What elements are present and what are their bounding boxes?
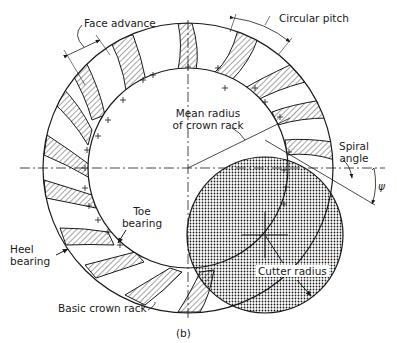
figure-caption: (b) [176, 327, 191, 339]
label-psi: ψ [378, 180, 385, 192]
label-basic-crown-rack: Basic crown rack [58, 302, 147, 314]
label-cutter-radius: Cutter radius [256, 265, 329, 277]
heel-bearing-line1: Heel [10, 243, 50, 255]
toe-bearing-line1: Toe [120, 205, 164, 217]
label-circular-pitch: Circular pitch [279, 12, 349, 24]
label-mean-radius: Mean radius of crown rack [168, 107, 248, 131]
mean-radius-line1: Mean radius [168, 107, 248, 119]
spiral-angle-line1: Spiral [334, 140, 374, 152]
heel-bearing-line2: bearing [10, 255, 50, 267]
label-face-advance: Face advance [84, 17, 156, 29]
toe-bearing-line2: bearing [120, 217, 164, 229]
label-heel-bearing: Heel bearing [10, 243, 50, 267]
spiral-angle-line2: angle [334, 152, 374, 164]
heel-bearing-arrow [56, 249, 68, 255]
toe-bearing-arrow [118, 230, 126, 243]
crown-rack-diagram [0, 0, 397, 343]
label-toe-bearing: Toe bearing [120, 205, 164, 229]
mean-radius-line2: of crown rack [168, 119, 248, 131]
spiral-angle-arc [372, 168, 376, 204]
label-spiral-angle: Spiral angle [334, 140, 374, 164]
